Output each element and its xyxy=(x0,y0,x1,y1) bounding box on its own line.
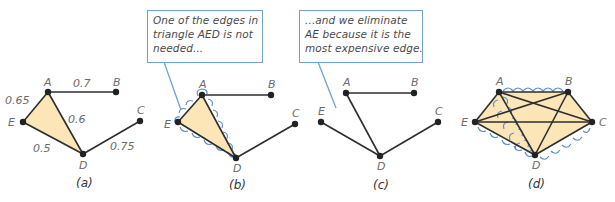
node-label-b: B xyxy=(268,78,276,91)
callout-pointer-c xyxy=(318,62,336,108)
node-label-c: C xyxy=(292,107,300,120)
panel-d: A B C D E (d) xyxy=(461,75,607,191)
node-c xyxy=(589,119,595,125)
node-a xyxy=(496,89,502,95)
callout-box-b: One of the edges in triangle AED is not … xyxy=(147,10,263,63)
diagram-figure: A B C D E 0.7 0.65 0.6 0.5 0.75 (a) A B … xyxy=(0,0,615,202)
node-a xyxy=(343,90,349,96)
node-label-d: D xyxy=(377,160,385,173)
callout-b-line-1: One of the edges in xyxy=(153,13,258,27)
node-label-a: A xyxy=(495,75,504,88)
node-label-e: E xyxy=(461,116,468,129)
callout-pointer-b xyxy=(164,62,181,110)
weight-dc: 0.75 xyxy=(110,140,135,153)
panel-a: A B C D E 0.7 0.65 0.6 0.5 0.75 (a) xyxy=(5,76,145,190)
panel-caption-a: (a) xyxy=(76,176,93,190)
node-label-a: A xyxy=(342,76,351,89)
node-label-a: A xyxy=(43,76,52,89)
node-b xyxy=(565,89,571,95)
node-c xyxy=(435,119,441,125)
node-label-c: C xyxy=(137,104,145,117)
node-b xyxy=(113,89,119,95)
node-label-b: B xyxy=(113,76,121,89)
weight-ad: 0.6 xyxy=(68,113,86,126)
node-label-b: B xyxy=(411,76,419,89)
node-label-e: E xyxy=(164,118,171,131)
node-label-e: E xyxy=(318,105,325,118)
node-b xyxy=(268,92,274,98)
node-c xyxy=(137,118,143,124)
node-d xyxy=(377,153,383,159)
panel-caption-b: (b) xyxy=(229,178,246,192)
node-a xyxy=(199,92,205,98)
weight-ed: 0.5 xyxy=(33,142,51,155)
panel-b: A B C D E (b) xyxy=(164,62,300,192)
node-d xyxy=(80,151,86,157)
callout-c-line-1: ...and we eliminate xyxy=(305,13,418,27)
callout-c-line-3: most expensive edge. xyxy=(305,41,418,55)
panel-caption-c: (c) xyxy=(373,178,389,192)
callout-b-line-2: triangle AED is not xyxy=(153,27,258,41)
node-label-d: D xyxy=(79,159,87,172)
callout-box-c: ...and we eliminate AE because it is the… xyxy=(299,10,423,63)
node-label-a: A xyxy=(198,78,207,91)
node-label-e: E xyxy=(8,116,15,129)
node-a xyxy=(45,89,51,95)
panel-caption-d: (d) xyxy=(528,177,545,191)
callout-b-line-3: needed... xyxy=(153,41,258,55)
node-d xyxy=(233,155,239,161)
edge-dc xyxy=(380,122,438,156)
node-e xyxy=(318,119,324,125)
panel-c: A B C D E (c) xyxy=(318,62,443,192)
edge-dc xyxy=(236,124,295,158)
node-c xyxy=(292,121,298,127)
weight-ab: 0.7 xyxy=(73,77,91,90)
node-label-c: C xyxy=(599,116,607,129)
node-label-d: D xyxy=(233,162,241,175)
node-b xyxy=(411,90,417,96)
node-d xyxy=(532,152,538,158)
node-e xyxy=(20,119,26,125)
node-label-c: C xyxy=(435,105,443,118)
node-label-b: B xyxy=(565,75,573,88)
node-label-d: D xyxy=(532,159,540,172)
callout-c-line-2: AE because it is the xyxy=(305,27,418,41)
node-e xyxy=(175,119,181,125)
node-e xyxy=(472,119,478,125)
pentagon-fill xyxy=(475,92,592,155)
weight-ae: 0.65 xyxy=(5,94,30,107)
